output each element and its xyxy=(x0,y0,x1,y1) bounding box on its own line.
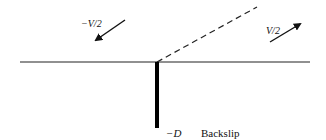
dashed-fault-line xyxy=(157,7,257,62)
diagram-canvas xyxy=(0,0,326,140)
right-velocity-label: V/2 xyxy=(266,26,280,36)
left-velocity-label: −V/2 xyxy=(81,19,102,29)
depth-label: −D xyxy=(166,128,181,139)
backslip-label: Backslip xyxy=(201,128,240,139)
